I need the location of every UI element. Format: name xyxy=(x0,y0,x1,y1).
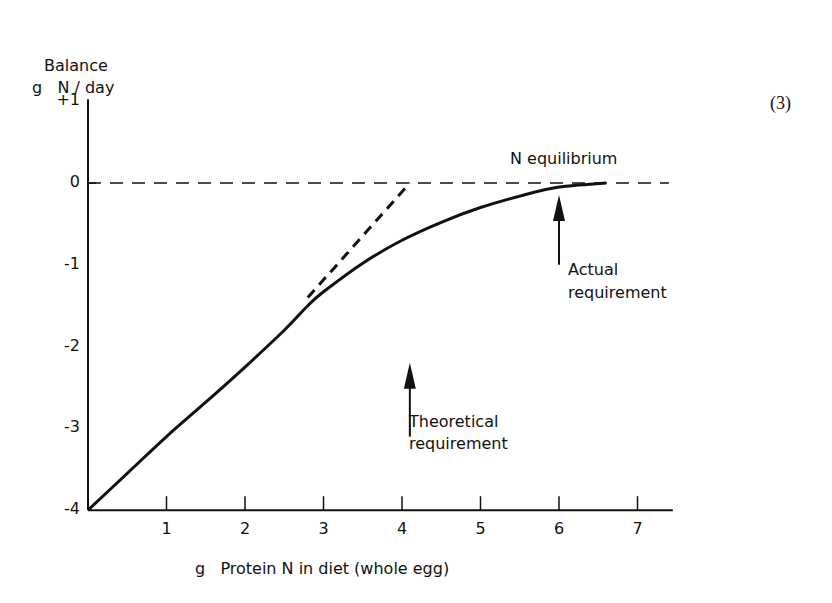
theoretical-requirement-label-line2: requirement xyxy=(409,436,508,452)
balance-curve xyxy=(88,183,606,510)
y-tick-label: +1 xyxy=(56,92,80,108)
x-tick-label: 3 xyxy=(319,521,329,537)
x-tick-label: 6 xyxy=(554,521,564,537)
arrows-layer xyxy=(404,195,565,436)
y-tick-label: 0 xyxy=(70,174,80,190)
theoretical-requirement-label-line1: Theoretical xyxy=(409,414,498,430)
y-tick-label: -2 xyxy=(64,338,80,354)
actual-requirement-arrow-icon xyxy=(553,195,565,221)
x-tick-label: 4 xyxy=(397,521,407,537)
equation-number: (3) xyxy=(770,93,791,114)
chart-canvas xyxy=(0,0,832,603)
series-layer xyxy=(88,183,669,510)
actual-requirement-label-line2: requirement xyxy=(568,285,667,301)
x-tick-label: 1 xyxy=(162,521,172,537)
n-equilibrium-label: N equilibrium xyxy=(510,151,617,167)
theoretical-dashed-line xyxy=(308,183,410,298)
y-tick-label: -3 xyxy=(64,419,80,435)
x-tick-label: 2 xyxy=(240,521,250,537)
y-tick-label: -1 xyxy=(64,256,80,272)
x-axis-label: g Protein N in diet (whole egg) xyxy=(195,561,449,577)
actual-requirement-label-line1: Actual xyxy=(568,262,618,278)
y-tick-label: -4 xyxy=(64,501,80,517)
y-axis-label-line1: Balance xyxy=(44,58,108,74)
x-tick-label: 7 xyxy=(633,521,643,537)
x-tick-label: 5 xyxy=(476,521,486,537)
theoretical-requirement-arrow-icon xyxy=(404,363,416,389)
